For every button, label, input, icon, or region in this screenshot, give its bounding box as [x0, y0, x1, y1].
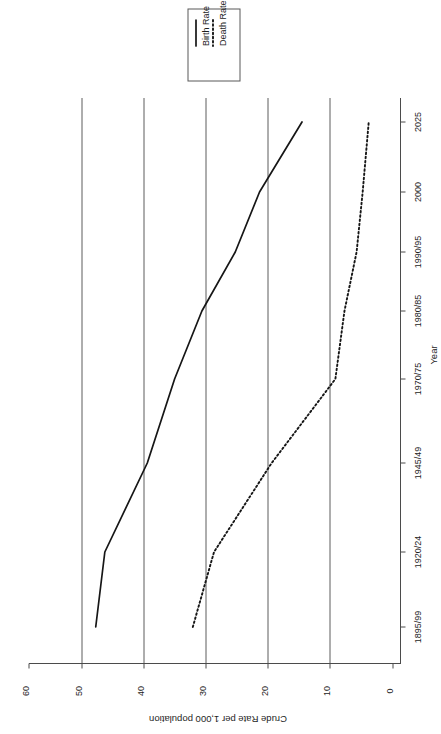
birth-rate-line [96, 122, 302, 627]
value-tick-label-10: 10 [322, 686, 332, 696]
value-axis: 60 50 40 30 20 10 0 Crude Rate per 1,000… [21, 664, 401, 726]
category-label-1990-95: 1990/95 [413, 236, 423, 269]
category-axis-title: Year [428, 345, 439, 364]
rotated-chart-canvas: 60 50 40 30 20 10 0 Crude Rate per 1,000… [0, 0, 441, 734]
category-label-1980-85: 1980/85 [413, 295, 423, 328]
death-rate-line [193, 122, 369, 627]
category-label-1895-99: 1895/99 [413, 611, 423, 644]
legend: Birth Rate Death Rate [188, 0, 240, 81]
value-tick-label-30: 30 [198, 686, 208, 696]
chart-figure: 60 50 40 30 20 10 0 Crude Rate per 1,000… [0, 0, 441, 734]
category-label-1920-24: 1920/24 [413, 536, 423, 569]
legend-label-death-rate: Death Rate [218, 0, 228, 46]
legend-label-birth-rate: Birth Rate [201, 6, 211, 46]
value-tick-label-40: 40 [136, 686, 146, 696]
value-tick-label-0: 0 [385, 688, 395, 693]
value-tick-label-50: 50 [74, 686, 84, 696]
category-label-2025: 2025 [413, 112, 423, 132]
category-label-1945-49: 1945/49 [413, 447, 423, 480]
value-tick-label-60: 60 [21, 686, 31, 696]
series-group [96, 122, 369, 627]
category-label-2000: 2000 [413, 182, 423, 202]
value-axis-title: Crude Rate per 1,000 population [149, 714, 287, 725]
category-axis: 1895/99 1920/24 1945/49 1970/75 1980/85 … [401, 98, 440, 663]
value-tick-label-20: 20 [260, 686, 270, 696]
category-label-1970-75: 1970/75 [413, 363, 423, 396]
line-chart-svg: 60 50 40 30 20 10 0 Crude Rate per 1,000… [0, 0, 441, 734]
